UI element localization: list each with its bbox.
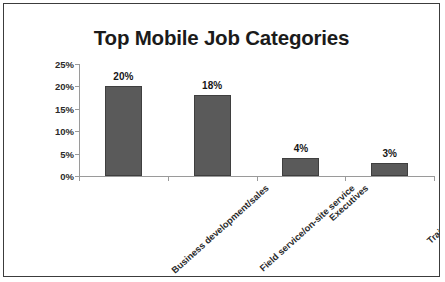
x-category-label: Business development/sales [170, 183, 271, 275]
plot-area: 25%20%15%10%5%0% 20%18%4%3% Business dev… [79, 64, 434, 176]
x-tick-mark [168, 176, 169, 181]
y-tick-mark [75, 154, 80, 155]
chart-title: Top Mobile Job Categories [4, 26, 439, 50]
y-tick-mark [75, 64, 80, 65]
bar [282, 158, 319, 176]
x-tick-mark [79, 176, 80, 181]
x-category-label: Training/education [425, 183, 440, 246]
bar-value-label: 18% [202, 80, 222, 91]
y-tick-mark [75, 131, 80, 132]
y-tick-label: 15% [55, 103, 74, 114]
bar-value-label: 20% [113, 71, 133, 82]
y-tick-mark [75, 109, 80, 110]
bar-value-label: 3% [382, 148, 396, 159]
bar-value-label: 4% [294, 143, 308, 154]
y-tick-label: 25% [55, 59, 74, 70]
y-tick-label: 0% [60, 171, 74, 182]
y-tick-label: 5% [60, 148, 74, 159]
bar [105, 86, 142, 176]
y-tick-label: 20% [55, 81, 74, 92]
bar [371, 163, 408, 176]
y-tick-mark [75, 86, 80, 87]
chart-frame: Top Mobile Job Categories 25%20%15%10%5%… [3, 3, 440, 277]
y-tick-label: 10% [55, 126, 74, 137]
x-tick-mark [257, 176, 258, 181]
x-tick-mark [345, 176, 346, 181]
x-tick-mark [434, 176, 435, 181]
x-category-label: Field service/on-site service [258, 183, 357, 273]
y-axis-line [79, 64, 80, 176]
bar [194, 95, 231, 176]
